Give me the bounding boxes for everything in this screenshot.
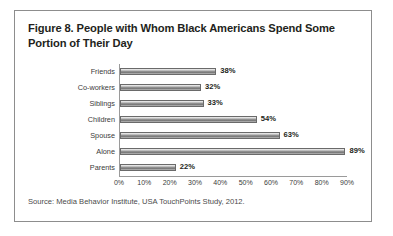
bar-row: 38% [120, 64, 347, 80]
category-label: Siblings [89, 99, 115, 109]
bar-value-label: 33% [208, 97, 223, 109]
x-tick-label: 20% [163, 178, 177, 188]
bar-value-label: 32% [205, 81, 220, 93]
x-tick-label: 0% [114, 178, 124, 188]
figure-title: Figure 8. People with Whom Black America… [28, 21, 348, 50]
x-tick-label: 80% [315, 178, 329, 188]
category-label: Alone [96, 147, 115, 157]
bar-row: 33% [120, 96, 347, 112]
bar [120, 84, 201, 91]
bar-row: 63% [120, 128, 347, 144]
x-axis: 0%10%20%30%40%50%60%70%80%90% [119, 178, 347, 190]
bar [120, 164, 176, 171]
x-tick-label: 90% [340, 178, 354, 188]
bar-row: 32% [120, 80, 347, 96]
x-tick-label: 60% [264, 178, 278, 188]
category-label: Spouse [90, 131, 115, 141]
bar-row: 89% [120, 144, 347, 160]
category-axis: FriendsCo-workersSiblingsChildrenSpouseA… [15, 64, 119, 176]
bar [120, 132, 280, 139]
bar [120, 100, 204, 107]
bar-value-label: 89% [349, 145, 364, 157]
bar-value-label: 63% [284, 129, 299, 141]
bar-chart: FriendsCo-workersSiblingsChildrenSpouseA… [15, 64, 373, 186]
bar-value-label: 22% [180, 161, 195, 173]
x-axis-line [119, 176, 347, 177]
x-tick-label: 70% [289, 178, 303, 188]
category-label: Co-workers [78, 83, 115, 93]
x-tick-label: 40% [213, 178, 227, 188]
category-label: Children [88, 115, 115, 125]
category-label: Friends [91, 67, 115, 77]
bar-value-label: 38% [220, 65, 235, 77]
bar-row: 22% [120, 160, 347, 176]
bar-value-label: 54% [261, 113, 276, 125]
category-label: Parents [90, 163, 115, 173]
plot-area: 38%32%33%54%63%89%22% [119, 64, 347, 176]
x-tick-label: 50% [239, 178, 253, 188]
source-note: Source: Media Behavior Institute, USA To… [28, 197, 245, 206]
bar-row: 54% [120, 112, 347, 128]
x-tick-label: 30% [188, 178, 202, 188]
bar [120, 148, 345, 155]
figure-container: Figure 8. People with Whom Black America… [14, 10, 372, 222]
bar [120, 116, 257, 123]
x-tick-label: 10% [137, 178, 151, 188]
bar [120, 68, 216, 75]
